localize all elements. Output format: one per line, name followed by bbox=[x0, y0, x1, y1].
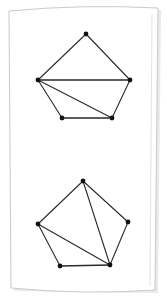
paper-sheet bbox=[9, 7, 158, 293]
vertex-bottom-left bbox=[60, 116, 65, 121]
vertex-bottom-left bbox=[58, 264, 63, 269]
screenshot-root: Hand-drawn graph sketch on white paper bbox=[0, 0, 167, 299]
vertex-apex bbox=[84, 32, 89, 37]
paper-photo bbox=[0, 0, 167, 299]
vertex-right bbox=[128, 78, 133, 83]
vertex-left bbox=[36, 222, 41, 227]
vertex-left bbox=[36, 78, 41, 83]
vertex-bottom-right bbox=[110, 116, 115, 121]
graph-drawing-canvas bbox=[0, 0, 167, 299]
vertex-right bbox=[126, 220, 131, 225]
vertex-apex bbox=[81, 179, 86, 184]
vertex-bottom-right bbox=[108, 263, 113, 268]
edge-bottom-left-bottom-right bbox=[60, 265, 110, 266]
